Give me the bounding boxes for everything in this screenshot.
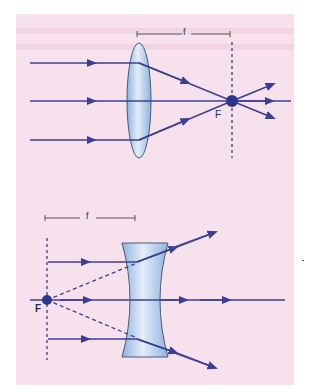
optics-svg	[0, 0, 310, 392]
focal-length-bar	[45, 215, 135, 221]
focus-label: F	[215, 109, 221, 120]
focal-point	[42, 295, 52, 305]
diverging-lens-diagram	[30, 215, 285, 367]
focal-point	[226, 95, 238, 107]
focus-label: F	[35, 303, 41, 314]
converging-lens-diagram	[30, 31, 291, 158]
focal-length-label: f	[183, 27, 186, 37]
stray-mark	[302, 260, 304, 261]
lens-diagram-figure: f F f F	[0, 0, 310, 392]
converging-rays	[30, 63, 291, 140]
focal-length-label: f	[86, 211, 89, 221]
